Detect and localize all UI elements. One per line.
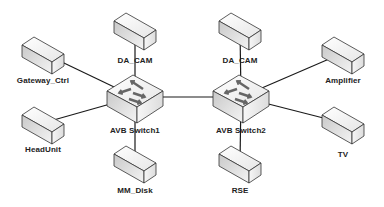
device-dacam1[interactable] xyxy=(114,13,156,50)
network-diagram xyxy=(0,0,384,207)
device-rse[interactable] xyxy=(219,146,261,183)
device-label-tv: TV xyxy=(338,150,348,159)
device-label-headunit: HeadUnit xyxy=(25,145,61,154)
device-dacam2[interactable] xyxy=(219,13,261,50)
device-tv[interactable] xyxy=(322,107,364,144)
nodes-layer xyxy=(22,13,364,183)
links-layer xyxy=(43,29,343,162)
device-amplifier[interactable] xyxy=(322,37,364,74)
switch-label-sw1: AVB Switch1 xyxy=(110,126,160,135)
device-headunit[interactable] xyxy=(22,107,64,144)
switch-label-sw2: AVB Switch2 xyxy=(216,126,266,135)
device-mmdisk[interactable] xyxy=(114,146,156,183)
switch-sw2[interactable] xyxy=(213,75,269,123)
switch-sw1[interactable] xyxy=(107,75,163,123)
device-label-gateway: Gateway_Ctrl xyxy=(17,76,69,85)
device-gateway[interactable] xyxy=(22,37,64,74)
device-label-amplifier: Amplifier xyxy=(325,76,361,85)
device-label-rse: RSE xyxy=(232,186,249,195)
device-label-mmdisk: MM_Disk xyxy=(117,186,152,195)
device-label-dacam1: DA_CAM xyxy=(118,56,153,65)
device-label-dacam2: DA_CAM xyxy=(223,56,258,65)
